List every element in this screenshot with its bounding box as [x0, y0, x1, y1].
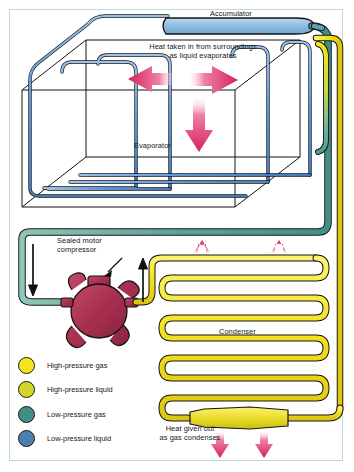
legend-label-high-pressure-gas: High-pressure gas: [47, 361, 107, 370]
accumulator-inlet-transition: [314, 26, 322, 28]
legend-item-low-pressure-liquid: Low-pressure liquid: [18, 427, 113, 452]
heat-out-arrow-up-left: [193, 240, 211, 254]
heat-out-line-1: Heat given out: [166, 424, 215, 433]
compressor-label-line-2: compressor: [57, 245, 96, 254]
accumulator: [163, 18, 314, 34]
legend: High-pressure gas High-pressure liquid L…: [18, 353, 113, 451]
heat-out-line-2: as gas condenses: [160, 433, 221, 442]
expansion-capillary-line: [318, 44, 326, 152]
condenser-label: Condenser: [219, 327, 256, 336]
sealed-motor-compressor: [61, 273, 139, 348]
evaporator-label: Evaporator: [134, 141, 171, 150]
flow-arrow-up-discharge: [139, 258, 148, 302]
legend-item-low-pressure-gas: Low-pressure gas: [18, 402, 113, 427]
compressor-label: Sealed motor compressor: [57, 236, 102, 254]
compressor-leader-line: [104, 258, 122, 277]
flow-arrow-down-suction: [29, 244, 38, 296]
legend-label-low-pressure-gas: Low-pressure gas: [47, 410, 106, 419]
heat-in-arrow-down: [185, 95, 213, 152]
heat-in-line-1: Heat taken in from surroundings: [149, 42, 256, 51]
heat-out-arrow-down-right: [255, 430, 273, 458]
legend-item-high-pressure-liquid: High-pressure liquid: [18, 378, 113, 403]
condenser-outlet-line: [286, 408, 340, 418]
accumulator-label: Accumulator: [210, 9, 252, 18]
legend-swatch-high-pressure-gas: [18, 357, 35, 374]
legend-swatch-low-pressure-liquid: [18, 430, 35, 447]
legend-swatch-low-pressure-gas: [18, 406, 35, 423]
heat-out-arrow-up-right: [270, 240, 288, 254]
legend-item-high-pressure-gas: High-pressure gas: [18, 353, 113, 378]
legend-swatch-high-pressure-liquid: [18, 381, 35, 398]
legend-label-high-pressure-liquid: High-pressure liquid: [47, 385, 113, 394]
evaporator-bottom-runs-fill: [44, 175, 310, 189]
compressor-label-line-1: Sealed motor: [57, 236, 102, 245]
heat-out-annotation: Heat given out as gas condenses: [140, 424, 240, 442]
refrigeration-cycle-diagram: Accumulator Heat taken in from surroundi…: [0, 0, 354, 472]
heat-in-line-2: as liquid evaporates: [169, 51, 236, 60]
legend-label-low-pressure-liquid: Low-pressure liquid: [47, 434, 111, 443]
condenser-coil-fill: [162, 258, 326, 418]
heat-in-annotation: Heat taken in from surroundings as liqui…: [118, 42, 288, 60]
